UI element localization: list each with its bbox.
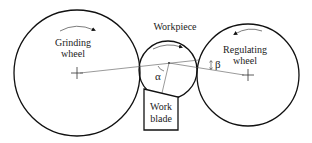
centerless-grinding-diagram: Grinding wheel Workpiece Regulating whee…: [0, 0, 312, 143]
beta-label: β: [215, 58, 221, 70]
regulating-wheel-label-line2: wheel: [233, 55, 257, 66]
workpiece-to-blade-line: [162, 63, 169, 93]
workpiece-rotation-arrow-icon: [153, 45, 181, 49]
work-blade-label-line2: blade: [150, 113, 172, 124]
grinding-wheel: Grinding wheel: [14, 10, 140, 136]
regulating-wheel-rotation-arrow-icon: [235, 29, 262, 34]
workpiece-label: Workpiece: [153, 21, 197, 32]
grinding-wheel-label-line1: Grinding: [55, 37, 91, 48]
grinding-wheel-label-line2: wheel: [61, 48, 85, 59]
work-blade: Work blade: [144, 89, 178, 130]
workpiece: Workpiece: [139, 21, 197, 99]
alpha-label: α: [155, 70, 161, 82]
regulating-wheel-label-line1: Regulating: [223, 44, 267, 55]
grinding-wheel-rotation-arrow-icon: [60, 26, 94, 31]
beta-angle-marker: β: [210, 58, 222, 70]
alpha-angle-marker: α: [155, 66, 164, 82]
work-blade-label-line1: Work: [150, 101, 172, 112]
regulating-wheel: Regulating wheel: [197, 24, 299, 126]
